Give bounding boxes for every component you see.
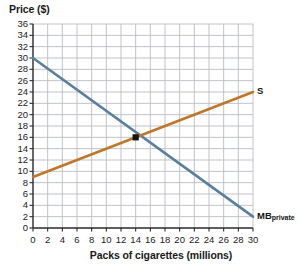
curve-label-MBprivate: MBprivate [257,210,295,221]
y-tick-34: 34 [6,29,28,40]
y-tick-18: 18 [6,120,28,131]
plot-area [33,24,253,228]
y-tick-2: 2 [6,211,28,222]
y-tick-20: 20 [6,109,28,120]
equilibrium-point [133,134,139,140]
y-tick-30: 30 [6,52,28,63]
curve-label-subscript: private [272,214,295,221]
y-tick-10: 10 [6,165,28,176]
curve-label-S: S [257,85,263,96]
x-axis-title: Packs of cigarettes (millions) [0,249,302,261]
price-quantity-chart: Price ($) 363432302826242220181614121086… [0,0,302,269]
y-tick-16: 16 [6,131,28,142]
series-line-MBprivate [33,58,253,217]
y-tick-26: 26 [6,75,28,86]
y-tick-6: 6 [6,188,28,199]
y-tick-12: 12 [6,154,28,165]
y-tick-22: 22 [6,97,28,108]
x-axis-title-text: Packs of cigarettes (millions) [70,249,232,261]
y-tick-36: 36 [6,18,28,29]
y-axis-title: Price ($) [9,3,50,15]
chart-series [33,24,253,228]
y-tick-4: 4 [6,199,28,210]
y-tick-32: 32 [6,41,28,52]
y-tick-8: 8 [6,177,28,188]
y-tick-0: 0 [6,222,28,233]
y-tick-14: 14 [6,143,28,154]
x-tick-30: 30 [242,234,264,245]
y-tick-28: 28 [6,63,28,74]
series-line-S [33,92,253,177]
y-tick-24: 24 [6,86,28,97]
